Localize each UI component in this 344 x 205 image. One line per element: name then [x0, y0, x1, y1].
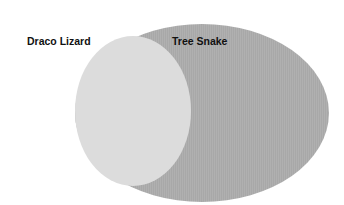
draco-lizard-label: Draco Lizard — [27, 35, 91, 47]
venn-diagram: Draco Lizard Tree Snake — [0, 0, 344, 205]
draco-lizard-set — [75, 36, 191, 186]
venn-svg — [0, 0, 344, 205]
tree-snake-label: Tree Snake — [172, 35, 227, 47]
